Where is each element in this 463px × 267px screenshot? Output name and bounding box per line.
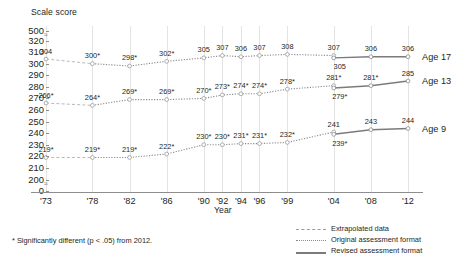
data-label-age-17-86: 302* <box>159 48 174 57</box>
y-tick-mark <box>46 64 49 65</box>
data-label-revised-age-13-08: 281* <box>363 73 378 82</box>
data-label-age-9-94: 231* <box>233 131 248 140</box>
data-point-marker <box>220 54 224 58</box>
data-label-revised-age-13-04: 279* <box>332 92 347 101</box>
data-point-marker <box>285 141 289 145</box>
data-point-marker <box>165 59 169 63</box>
y-tick-mark <box>46 52 49 53</box>
extrapolated-line-age-13 <box>46 103 92 105</box>
data-label-age-17-04: 307 <box>328 43 340 52</box>
extrapolated-line-age-17 <box>46 59 92 64</box>
data-label-revised-age-13-12: 285 <box>402 68 414 77</box>
data-point-marker <box>258 142 262 146</box>
data-label-age-17-99: 308 <box>281 41 293 50</box>
legend: Extrapolated dataOriginal assessment for… <box>296 224 456 257</box>
data-label-age-13-96: 274* <box>252 81 267 90</box>
chart-root: Scale score 5003203103002902802702602502… <box>0 0 463 267</box>
data-point-marker <box>258 54 262 58</box>
data-label-age-17-96: 307 <box>253 43 265 52</box>
data-point-marker <box>239 55 243 59</box>
axis-break-icon: ≈ <box>44 180 48 187</box>
data-label-revised-age-17-04: 305 <box>334 62 346 71</box>
data-point-marker <box>202 143 206 147</box>
data-label-age-13-04: 281* <box>326 73 341 82</box>
data-point-marker <box>128 156 132 160</box>
y-tick-mark <box>46 41 49 42</box>
data-label-age-17-94: 306 <box>235 44 247 53</box>
data-point-marker <box>258 92 262 96</box>
legend-item: Revised assessment format <box>296 246 456 257</box>
data-point-marker <box>332 56 336 60</box>
data-label-age-13-99: 278* <box>280 76 295 85</box>
legend-item: Original assessment format <box>296 235 456 246</box>
data-label-age-9-86: 222* <box>159 141 174 150</box>
data-point-marker <box>239 142 243 146</box>
axis-break-icon: ≈ <box>44 31 48 38</box>
data-label-revised-age-9-04: 239* <box>332 138 347 147</box>
y-tick-mark <box>46 168 49 169</box>
series-label-age-17: Age 17 <box>422 52 451 62</box>
legend-label: Original assessment format <box>331 235 421 244</box>
data-point-marker <box>406 55 410 59</box>
y-tick-mark <box>46 122 49 123</box>
data-label-age-13-94: 274* <box>233 81 248 90</box>
data-point-marker <box>128 64 132 68</box>
data-point-marker <box>239 92 243 96</box>
data-label-age-9-04: 241 <box>328 119 340 128</box>
data-point-marker <box>91 103 95 107</box>
data-point-marker <box>369 55 373 59</box>
data-point-marker <box>369 128 373 132</box>
data-label-age-17-73: 304 <box>40 46 52 55</box>
data-label-age-9-90: 230* <box>196 132 211 141</box>
y-tick-mark <box>46 191 49 192</box>
data-point-marker <box>44 57 48 61</box>
data-point-marker <box>91 62 95 66</box>
y-tick-mark <box>46 133 49 134</box>
data-label-age-9-99: 232* <box>280 129 295 138</box>
data-point-marker <box>369 84 373 88</box>
data-point-marker <box>220 93 224 97</box>
series-label-age-13: Age 13 <box>422 76 451 86</box>
data-point-marker <box>44 101 48 105</box>
data-point-marker <box>128 98 132 102</box>
footnote: * Significantly different (p < .05) from… <box>12 236 152 245</box>
data-label-age-17-78: 300* <box>85 51 100 60</box>
data-label-revised-age-9-12: 244 <box>402 116 414 125</box>
legend-swatch-solid <box>296 252 326 254</box>
data-label-revised-age-17-08: 306 <box>365 44 377 53</box>
data-point-marker <box>332 132 336 136</box>
data-point-marker <box>165 98 169 102</box>
data-label-age-13-78: 264* <box>85 92 100 101</box>
data-label-age-9-96: 231* <box>252 131 267 140</box>
data-point-marker <box>285 53 289 57</box>
data-label-age-9-92: 230* <box>215 132 230 141</box>
data-label-age-17-82: 298* <box>122 53 137 62</box>
data-point-marker <box>220 143 224 147</box>
data-point-marker <box>202 97 206 101</box>
data-label-age-13-92: 273* <box>215 82 230 91</box>
data-label-age-17-92: 307 <box>216 43 228 52</box>
data-point-marker <box>332 86 336 90</box>
data-label-age-9-78: 219* <box>85 144 100 153</box>
y-tick-mark <box>46 145 49 146</box>
y-tick-mark <box>46 75 49 76</box>
data-point-marker <box>285 87 289 91</box>
data-label-age-9-73: 219* <box>38 144 53 153</box>
y-tick-mark <box>46 87 49 88</box>
legend-swatch-dotted <box>296 240 326 241</box>
y-tick-mark <box>46 98 49 99</box>
x-axis-title: Year <box>214 205 232 215</box>
data-label-revised-age-9-08: 243 <box>365 117 377 126</box>
legend-swatch-dashed <box>296 229 326 230</box>
data-point-marker <box>91 156 95 160</box>
data-label-age-13-86: 269* <box>159 87 174 96</box>
y-tick-mark <box>46 110 49 111</box>
data-point-marker <box>165 152 169 156</box>
data-label-age-13-90: 270* <box>196 85 211 94</box>
data-point-marker <box>202 56 206 60</box>
y-tick-mark <box>46 156 49 157</box>
data-label-age-9-82: 219* <box>122 144 137 153</box>
data-label-revised-age-17-12: 306 <box>402 44 414 53</box>
data-point-marker <box>406 127 410 131</box>
legend-label: Extrapolated data <box>331 224 389 233</box>
